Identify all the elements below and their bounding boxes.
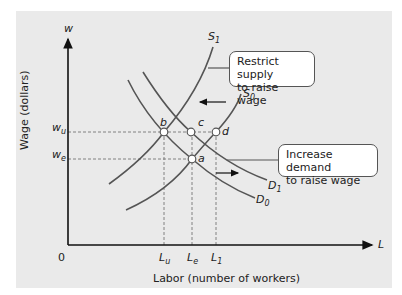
tick-wu: wu <box>52 121 66 134</box>
tick-lu: Lu <box>159 251 170 264</box>
label-point-a: a <box>198 152 205 165</box>
tick-le: Le <box>187 251 198 264</box>
y-axis-symbol: w <box>64 22 73 35</box>
point-c <box>187 128 195 136</box>
label-s1: S1 <box>208 30 220 43</box>
restrict-supply-callout: Restrict supply to raise wage <box>229 51 315 87</box>
tick-we: we <box>52 148 66 161</box>
tick-l1: L1 <box>211 251 222 264</box>
label-point-b: b <box>160 116 167 129</box>
guide-lines <box>68 132 216 245</box>
point-d <box>212 128 220 136</box>
x-axis-symbol: L <box>378 238 384 251</box>
label-d0: D0 <box>256 193 270 206</box>
point-a <box>188 155 196 163</box>
label-point-c: c <box>198 116 204 129</box>
increase-demand-callout: Increase demand to raise wage <box>278 144 378 177</box>
label-point-d: d <box>222 125 229 138</box>
callout-line: Restrict supply <box>237 55 307 81</box>
demand-curve-d0 <box>128 80 255 198</box>
callout-line: Increase demand <box>286 148 370 174</box>
x-axis-title: Labor (number of workers) <box>153 272 300 285</box>
point-b <box>160 128 168 136</box>
origin-label: 0 <box>58 251 65 264</box>
callout-line: to raise wage <box>286 174 370 187</box>
callout-line: to raise wage <box>237 81 307 107</box>
label-d1: D1 <box>268 179 282 192</box>
y-axis-title: Wage (dollars) <box>18 70 31 150</box>
